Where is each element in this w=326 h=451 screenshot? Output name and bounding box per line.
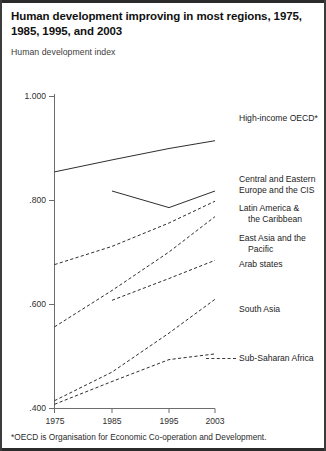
y-tick-label-600: .600: [12, 299, 46, 309]
eastasia-label-line1: East Asia and the: [239, 233, 306, 243]
series-label-sub-saharan-africa: Sub-Saharan Africa: [239, 353, 314, 364]
series-high-income-oecd: [55, 141, 216, 172]
series-label-latin-america-caribbean: Latin America & the Caribbean: [239, 203, 302, 224]
eastasia-label-line2: Pacific: [239, 244, 306, 255]
sub-saharan-africa-leader-dash: [206, 358, 236, 359]
series-east-asia-pacific: [55, 217, 216, 327]
series-label-central-eastern-europe-cis: Central and Eastern Europe and the CIS: [239, 174, 315, 195]
series-label-high-income-oecd: High-income OECD*: [239, 113, 318, 124]
series-label-arab-states: Arab states: [239, 259, 282, 270]
series-central-eastern-europe-cis: [112, 191, 215, 208]
x-tick-label-1995: 1995: [149, 416, 189, 426]
figure-panel: Human development improving in most regi…: [0, 0, 326, 451]
cee-label-line2: Europe and the CIS: [239, 185, 315, 196]
x-tick-label-1985: 1985: [92, 416, 132, 426]
cee-label-line1: Central and Eastern: [239, 174, 315, 184]
series-label-south-asia: South Asia: [239, 304, 280, 315]
series-south-asia: [55, 299, 216, 400]
x-tick-label-2003: 2003: [195, 416, 235, 426]
y-tick-label-400: .400: [12, 403, 46, 413]
series-group: [55, 141, 216, 405]
latam-label-line1: Latin America &: [239, 203, 299, 213]
series-arab-states: [112, 260, 215, 300]
y-tick-label-800: .800: [12, 195, 46, 205]
axes-group: [49, 94, 215, 413]
x-tick-label-1975: 1975: [35, 416, 75, 426]
series-label-east-asia-pacific: East Asia and the Pacific: [239, 233, 306, 254]
chart-svg: [2, 0, 326, 451]
y-tick-label-1000: 1.000: [12, 91, 46, 101]
series-sub-saharan-africa: [55, 354, 216, 404]
chart-footnote: *OECD is Organisation for Economic Co-op…: [11, 432, 266, 442]
plot-area: 1.000 .800 .600 .400 1975 1985 1995 2003…: [2, 0, 326, 451]
latam-label-line2: the Caribbean: [239, 214, 302, 225]
series-latin-america-caribbean: [55, 201, 216, 264]
